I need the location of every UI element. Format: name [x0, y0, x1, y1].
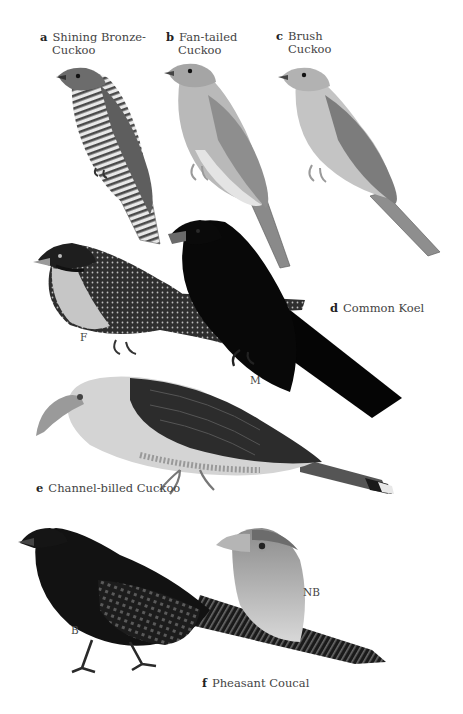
bird-common-koel-male: [168, 220, 402, 418]
bird-illustrations: [0, 0, 463, 714]
species-name-line1: Brush: [288, 29, 323, 43]
species-letter: b: [166, 30, 174, 44]
sublabel-coucal-non-breeding: NB: [303, 586, 320, 598]
bird-pheasant-coucal-breeding: [18, 528, 386, 672]
species-label-a: aShining Bronze- Cuckoo: [40, 31, 146, 57]
species-label-b: bFan-tailed Cuckoo: [166, 31, 237, 57]
species-name-line2: Cuckoo: [40, 44, 146, 57]
sublabel-coucal-breeding: B: [71, 624, 79, 636]
species-letter: c: [276, 29, 283, 43]
species-label-e: eChannel-billed Cuckoo: [36, 482, 180, 495]
species-label-d: dCommon Koel: [330, 302, 424, 315]
bird-brush-cuckoo: [278, 68, 440, 256]
species-name-line1: Shining Bronze-: [52, 30, 146, 44]
species-label-c: cBrush Cuckoo: [276, 30, 331, 56]
sublabel-koel-male: M: [250, 374, 261, 386]
bird-shining-bronze-cuckoo: [56, 68, 160, 244]
species-letter: d: [330, 301, 338, 315]
species-label-f: fPheasant Coucal: [202, 677, 309, 690]
species-name-line1: Fan-tailed: [179, 30, 237, 44]
species-letter: a: [40, 30, 47, 44]
species-name-line2: Cuckoo: [166, 44, 237, 57]
species-name-line2: Cuckoo: [276, 43, 331, 56]
species-letter: e: [36, 481, 43, 495]
species-letter: f: [202, 676, 207, 690]
field-guide-plate: aShining Bronze- Cuckoo bFan-tailed Cuck…: [0, 0, 463, 714]
species-name: Channel-billed Cuckoo: [48, 481, 180, 495]
sublabel-koel-female: F: [80, 331, 87, 343]
species-name: Common Koel: [343, 301, 424, 315]
species-name: Pheasant Coucal: [212, 676, 309, 690]
